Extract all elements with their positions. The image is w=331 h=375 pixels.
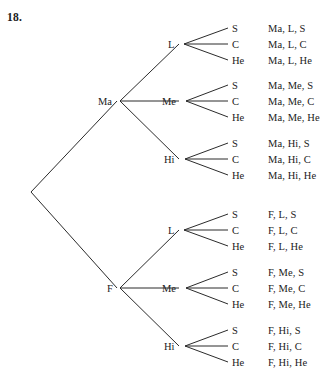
leaf-label: He [232, 299, 244, 310]
branch-mal-to-he [184, 44, 228, 60]
outcome-label: F, Me, C [268, 283, 305, 294]
branch-f-to-hi [120, 288, 179, 346]
node-label-ma-l: L [168, 39, 174, 50]
outcome-label: F, L, He [268, 241, 303, 252]
leaf-label: S [232, 23, 238, 34]
leaf-label: C [232, 341, 239, 352]
branch-mahi-to-s [185, 143, 228, 159]
outcome-label: Ma, L, He [268, 55, 312, 66]
node-label-ma-me: Me [162, 96, 176, 107]
branch-ma-to-l [120, 44, 179, 101]
outcome-label: Ma, Me, S [268, 80, 313, 91]
leaf-label: C [232, 225, 239, 236]
outcome-label: F, Hi, S [268, 325, 301, 336]
leaf-label: C [232, 96, 239, 107]
leaf-label: He [232, 357, 244, 368]
branch-mahi-to-he [185, 159, 228, 175]
branch-root-to-f [31, 192, 117, 288]
node-label-f: F [107, 283, 113, 294]
node-label-ma: Ma [98, 96, 112, 107]
outcome-label: Ma, Me, C [268, 96, 314, 107]
leaf-label: He [232, 112, 244, 123]
outcome-label: F, Me, S [268, 267, 304, 278]
branch-fl-to-he [184, 230, 228, 246]
outcome-label: F, L, S [268, 209, 296, 220]
branch-f-to-l [120, 230, 179, 288]
branch-fme-to-s [186, 272, 228, 288]
outcome-label: F, L, C [268, 225, 298, 236]
outcome-label: F, Me, He [268, 299, 311, 310]
branch-root-to-ma [31, 101, 117, 192]
leaf-label: S [232, 80, 238, 91]
branch-mal-to-s [184, 28, 228, 44]
leaf-label: S [232, 325, 238, 336]
branch-mame-to-s [186, 85, 228, 101]
tree-diagram-figure: 18. [0, 0, 331, 375]
leaf-label: He [232, 55, 244, 66]
branch-fme-to-he [186, 288, 228, 304]
outcome-label: Ma, Hi, C [268, 154, 311, 165]
leaf-label: He [232, 241, 244, 252]
leaf-label: C [232, 283, 239, 294]
node-label-f-hi: Hi [164, 341, 175, 352]
branch-fhi-to-s [185, 330, 228, 346]
branch-ma-to-hi [120, 101, 179, 159]
leaf-label: S [232, 138, 238, 149]
node-label-f-l: L [168, 225, 174, 236]
outcome-label: Ma, Hi, He [268, 170, 316, 181]
branch-fl-to-s [184, 214, 228, 230]
leaf-label: He [232, 170, 244, 181]
leaf-label: C [232, 154, 239, 165]
outcome-label: F, Hi, C [268, 341, 302, 352]
branch-fhi-to-he [185, 346, 228, 362]
leaf-label: S [232, 209, 238, 220]
node-label-f-me: Me [162, 283, 176, 294]
node-label-ma-hi: Hi [164, 154, 175, 165]
outcome-label: Ma, L, S [268, 23, 306, 34]
leaf-label: S [232, 267, 238, 278]
branch-mame-to-he [186, 101, 228, 117]
outcome-label: Ma, Hi, S [268, 138, 310, 149]
leaf-label: C [232, 39, 239, 50]
outcome-label: Ma, L, C [268, 39, 307, 50]
outcome-label: F, Hi, He [268, 357, 307, 368]
outcome-label: Ma, Me, He [268, 112, 320, 123]
